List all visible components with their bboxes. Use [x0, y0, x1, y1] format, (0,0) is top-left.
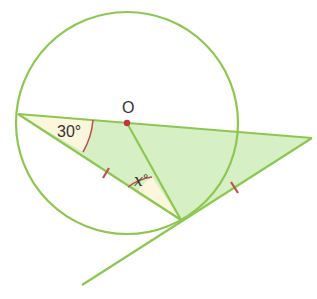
center-point-o [124, 120, 130, 126]
geometry-diagram: O 30° x° [0, 0, 317, 299]
center-label: O [122, 99, 134, 116]
angle-30-label: 30° [57, 123, 81, 140]
angle-x-variable: x [134, 171, 143, 190]
angle-x-degree: ° [143, 171, 148, 186]
